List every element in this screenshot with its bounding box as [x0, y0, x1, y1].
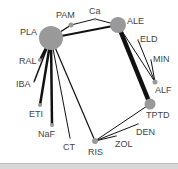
node-label-naf: NaF	[38, 129, 56, 139]
node-den	[137, 123, 139, 125]
edge-pla-ct	[51, 38, 70, 138]
node-ale	[110, 17, 126, 33]
node-ris	[92, 138, 98, 144]
node-alf	[153, 80, 158, 85]
node-label-ris: RIS	[88, 147, 103, 157]
node-label-ale: ALE	[127, 16, 144, 26]
node-eti	[38, 103, 42, 107]
node-label-alf: ALF	[155, 85, 172, 95]
node-label-min: MIN	[153, 54, 170, 64]
edge-pla-ris	[51, 38, 95, 141]
node-label-ca: Ca	[89, 6, 101, 16]
node-pam	[69, 23, 74, 28]
node-min	[150, 59, 152, 61]
node-ca	[94, 18, 97, 21]
node-tptd	[145, 99, 156, 110]
node-naf	[50, 123, 54, 127]
node-label-tptd: TPTD	[146, 110, 170, 120]
node-iba	[33, 81, 35, 83]
bottom-scrollbar[interactable]	[0, 163, 178, 169]
node-eld	[137, 39, 139, 41]
node-label-eti: ETI	[29, 109, 43, 119]
node-label-ral: RAL	[19, 56, 37, 66]
network-diagram: PLAPAMCaALEELDMINALFTPTDDENZOLRISCTNaFET…	[0, 0, 178, 169]
node-label-eld: ELD	[140, 34, 158, 44]
node-label-pla: PLA	[20, 27, 37, 37]
node-label-pam: PAM	[56, 10, 75, 20]
node-ral	[38, 58, 42, 62]
node-zol	[115, 135, 117, 137]
node-ct	[69, 137, 71, 139]
edge-pla-naf	[51, 38, 52, 125]
node-label-zol: ZOL	[115, 139, 133, 149]
node-label-iba: IBA	[16, 79, 31, 89]
node-pla	[39, 26, 63, 50]
node-label-ct: CT	[63, 142, 75, 152]
node-label-den: DEN	[136, 127, 155, 137]
